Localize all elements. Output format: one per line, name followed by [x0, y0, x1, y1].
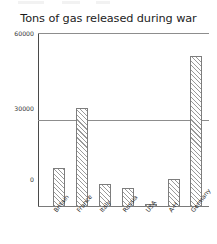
y-tick-label-30000: 30000 — [14, 105, 34, 112]
scan-artifact — [96, 1, 110, 4]
bar-germany — [190, 56, 202, 207]
gridline-60000 — [38, 33, 209, 34]
plot-area — [38, 33, 209, 207]
gridline-30000 — [38, 120, 209, 121]
bar-chart: Tons of gas released during war 60000 30… — [0, 0, 217, 244]
scan-artifact — [62, 1, 80, 4]
x-axis-labels: Britain France Italy Russia USA A-H Germ… — [38, 207, 209, 244]
scan-artifact — [18, 1, 44, 4]
y-tick-label-0: 0 — [30, 176, 34, 183]
chart-title: Tons of gas released during war — [0, 12, 217, 25]
bar-france — [76, 108, 88, 207]
y-tick-label-60000: 60000 — [14, 30, 34, 37]
